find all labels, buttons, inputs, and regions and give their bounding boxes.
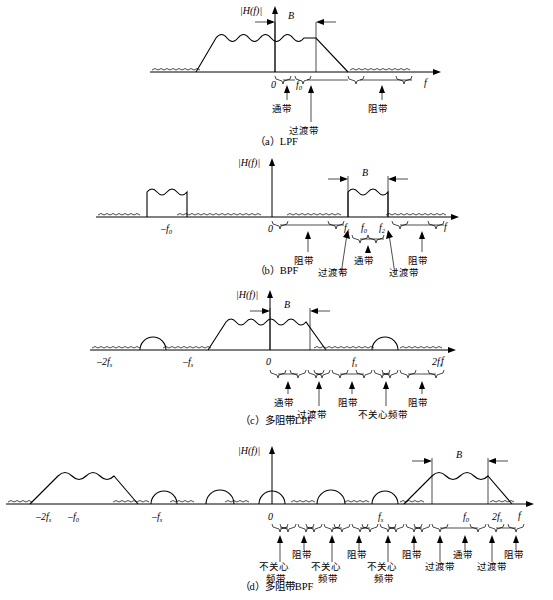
y-axis-label-d: |H(f)| <box>238 445 260 457</box>
bandwidth-label-b: B <box>362 167 368 178</box>
response-curve-d-neg <box>30 473 138 505</box>
svg-text:通带: 通带 <box>274 397 294 408</box>
band-label-transition-a: 过渡带 <box>289 85 319 136</box>
y-axis-b <box>269 158 275 217</box>
band-label-dontcare3-d: 不关心 频带 <box>367 535 397 584</box>
band-label-transition1-d: 过渡带 <box>425 535 455 572</box>
svg-text:阻带: 阻带 <box>402 549 422 560</box>
svg-text:阻带: 阻带 <box>338 397 358 408</box>
band-label-dontcare1-d: 不关心 频带 <box>259 535 289 584</box>
svg-text:阻带: 阻带 <box>504 549 524 560</box>
xtick-f0-d: f0 <box>463 511 470 523</box>
band-label-passband-c: 通带 <box>274 381 294 408</box>
x-axis-label-d: f <box>518 510 522 521</box>
band-label-stopband2-d: 阻带 <box>347 535 367 560</box>
x-axis-c <box>90 347 456 353</box>
bandwidth-label-d: B <box>456 449 462 460</box>
x-axis-label-a: f <box>424 77 428 88</box>
xtick-neg2fs-c: –2fs <box>96 356 113 368</box>
svg-text:阻带: 阻带 <box>347 549 367 560</box>
bandwidth-marker-a: B <box>255 10 336 25</box>
dontcare-lobe-c-left <box>140 337 166 350</box>
svg-text:过渡带: 过渡带 <box>425 561 455 572</box>
braces-b <box>272 221 444 243</box>
ripple-c-4 <box>400 347 442 349</box>
xtick-f0-b: f0 <box>361 222 368 234</box>
xtick-0-d: 0 <box>268 511 273 522</box>
xtick-fs-d: fs <box>378 511 384 523</box>
bandwidth-marker-c: B <box>250 299 330 314</box>
svg-text:阻带: 阻带 <box>408 397 428 408</box>
dontcare-lobe-c-right <box>372 337 398 350</box>
response-curve-d-pos <box>404 473 512 505</box>
band-label-stopband-left-b: 阻带 <box>294 231 314 266</box>
xtick-neg2fs-d: –2fs <box>35 511 52 523</box>
xtick-2fs-d: 2fs <box>492 511 503 523</box>
baseline-ripples-d <box>8 501 514 503</box>
band-label-stopband4-d: 阻带 <box>504 535 524 560</box>
caption-a: （a）LPF <box>0 133 553 148</box>
ripple-c-1 <box>92 347 140 349</box>
bandwidth-label-a: B <box>288 10 294 21</box>
y-axis-d <box>269 446 275 504</box>
y-axis-label-a: |H(f)| <box>240 5 262 17</box>
band-label-stopband1-d: 阻带 <box>292 535 312 560</box>
band-label-transition2-d: 过渡带 <box>477 535 507 572</box>
svg-text:阻带: 阻带 <box>292 549 312 560</box>
band-label-dontcare2-d: 不关心 频带 <box>311 535 341 584</box>
stopband-ripple-right-a <box>350 69 410 71</box>
x-axis-label-b: f <box>444 221 448 232</box>
response-curve-c <box>208 319 326 350</box>
response-curve-b-neg <box>147 189 187 217</box>
dontcare-lobe-d-1 <box>151 491 177 504</box>
svg-text:通带: 通带 <box>453 549 473 560</box>
svg-text:通带: 通带 <box>272 103 292 114</box>
response-curve-a <box>196 35 348 73</box>
braces-c <box>270 370 444 378</box>
svg-text:不关心: 不关心 <box>259 561 289 572</box>
y-axis-label-c: |H(f)| <box>236 289 258 301</box>
caption-b: （b）BPF <box>0 262 553 277</box>
svg-text:阻带: 阻带 <box>368 103 388 114</box>
y-axis-label-b: |H(f)| <box>238 157 260 169</box>
panel-lpf: B |H(f)| f 0 f0 通带 过渡带 阻带 <box>0 0 553 140</box>
xtick-0-a: 0 <box>271 79 276 90</box>
dontcare-lobe-d-5 <box>372 491 398 504</box>
ripple-b-3 <box>287 214 341 216</box>
panel-multistop-lpf: B |H(f)| f –2fs –fs 0 fs 2fs 通带 过渡带 阻带 <box>0 282 553 410</box>
band-label-stopband2-c: 阻带 <box>408 381 428 408</box>
dontcare-lobe-d-4 <box>317 490 345 504</box>
bandwidth-label-c: B <box>284 299 290 310</box>
xtick-negfs-c: –fs <box>182 356 194 368</box>
ripple-c-2 <box>163 347 211 349</box>
xtick-negfs-d: –fs <box>151 511 163 523</box>
xtick-negf0-b: –f0 <box>160 223 173 235</box>
caption-c: （c）多阻带LPF <box>0 412 553 427</box>
stopband-ripple-left-a <box>152 69 200 71</box>
svg-text:不关心: 不关心 <box>367 561 397 572</box>
svg-text:过渡带: 过渡带 <box>477 561 507 572</box>
x-axis-d <box>6 501 534 507</box>
band-label-passband-d: 通带 <box>453 535 473 560</box>
dontcare-lobe-d-2 <box>206 490 234 504</box>
ripple-b-2 <box>177 214 261 216</box>
response-curve-b-pos <box>348 189 388 217</box>
ripple-b-1 <box>98 214 140 216</box>
braces-d <box>272 524 524 532</box>
xtick-0-c: 0 <box>266 356 271 367</box>
xtick-f2-b: f2 <box>379 222 386 234</box>
xtick-negf0-d: –f0 <box>67 511 80 523</box>
band-label-stopband1-c: 阻带 <box>338 381 358 408</box>
band-label-stopband3-d: 阻带 <box>402 535 422 560</box>
ripple-b-4 <box>386 214 446 216</box>
caption-d: （d）多阻带BPF <box>0 578 553 593</box>
svg-text:不关心: 不关心 <box>311 561 341 572</box>
band-label-stopband-a: 阻带 <box>368 85 388 114</box>
xtick-fs-c: fs <box>352 356 358 368</box>
band-label-stopband-right-b: 阻带 <box>408 231 428 266</box>
xtick-0-b: 0 <box>268 223 273 234</box>
panel-multistop-bpf: B |H(f)| f –2fs –f0 –fs 0 fs f0 2fs <box>0 432 553 582</box>
